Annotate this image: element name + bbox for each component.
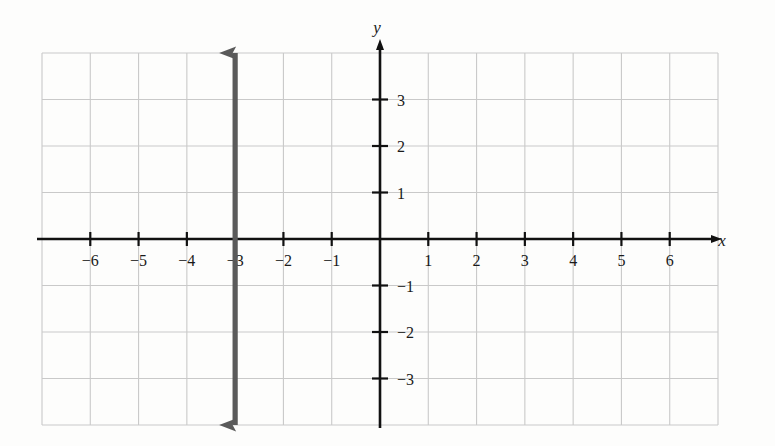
- y-tick-label: −1: [397, 278, 414, 295]
- x-axis-label: x: [717, 231, 726, 250]
- y-tick-label: 2: [397, 138, 405, 155]
- graph-canvas: −6−5−4−3−2−1123456321−1−2−3 x y: [0, 0, 775, 446]
- x-tick-label: −5: [130, 252, 147, 269]
- x-tick-label: 3: [521, 252, 529, 269]
- x-tick-label: 1: [424, 252, 432, 269]
- y-tick-label: 1: [397, 185, 405, 202]
- x-tick-label: −6: [82, 252, 99, 269]
- x-tick-label: −4: [178, 252, 195, 269]
- x-tick-label: 2: [473, 252, 481, 269]
- x-tick-label: −1: [323, 252, 340, 269]
- y-axis-label: y: [371, 18, 381, 37]
- y-tick-label: −2: [397, 324, 414, 341]
- x-tick-label: 4: [569, 252, 577, 269]
- x-tick-label: −2: [275, 252, 292, 269]
- y-tick-label: 3: [397, 92, 405, 109]
- coordinate-plane-svg: −6−5−4−3−2−1123456321−1−2−3 x y: [0, 0, 775, 446]
- x-tick-label: 6: [666, 252, 674, 269]
- y-tick-label: −3: [397, 371, 414, 388]
- x-tick-label: 5: [617, 252, 625, 269]
